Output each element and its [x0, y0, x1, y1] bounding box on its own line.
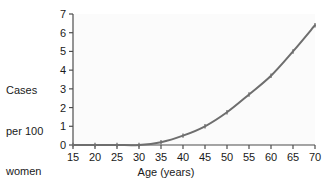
y-tick-label: 0 — [60, 139, 66, 151]
y-tick-label: 6 — [60, 27, 66, 39]
y-tick-label: 4 — [60, 64, 66, 76]
x-tick-label: 60 — [265, 151, 277, 163]
plot-background — [73, 14, 315, 145]
x-tick-label: 65 — [287, 151, 299, 163]
x-tick-label: 55 — [243, 151, 255, 163]
x-tick-label: 70 — [309, 151, 321, 163]
y-tick-label: 2 — [60, 102, 66, 114]
chart-figure: Cases per 100 women 01234567 15202530354… — [0, 0, 332, 186]
x-axis-label: Age (years) — [0, 166, 332, 178]
plot-area: 01234567 152025303540455055606570 — [0, 0, 332, 186]
y-tick-label: 5 — [60, 45, 66, 57]
x-tick-label: 15 — [67, 151, 79, 163]
x-tick-label: 50 — [221, 151, 233, 163]
x-tick-label: 45 — [199, 151, 211, 163]
y-tick-label: 7 — [60, 8, 66, 20]
x-tick-label: 30 — [133, 151, 145, 163]
y-axis-ticks: 01234567 — [60, 8, 73, 151]
x-axis-ticks: 152025303540455055606570 — [67, 145, 321, 163]
x-tick-label: 40 — [177, 151, 189, 163]
y-tick-label: 1 — [60, 120, 66, 132]
x-tick-label: 25 — [111, 151, 123, 163]
x-tick-label: 20 — [89, 151, 101, 163]
x-tick-label: 35 — [155, 151, 167, 163]
y-tick-label: 3 — [60, 83, 66, 95]
